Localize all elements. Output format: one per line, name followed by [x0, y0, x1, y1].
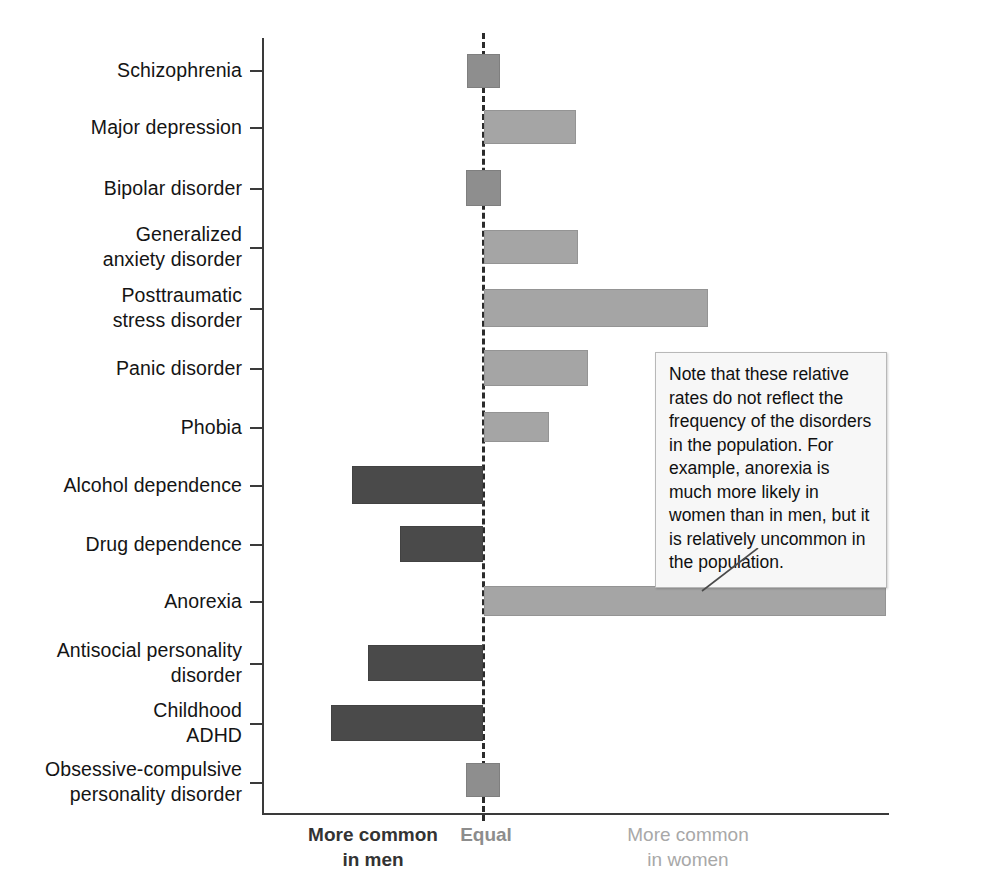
category-label: Bipolar disorder — [104, 176, 242, 201]
bar-drug-dependence — [400, 526, 483, 562]
category-tick — [250, 308, 263, 310]
bar-phobia — [484, 412, 549, 442]
bar-major-depression — [484, 110, 576, 144]
category-tick — [250, 368, 263, 370]
category-label: Phobia — [181, 415, 242, 440]
category-label: Major depression — [91, 115, 242, 140]
category-tick — [250, 70, 263, 72]
category-tick — [250, 782, 263, 784]
category-tick — [250, 485, 263, 487]
axis-caption-more-common-in-women: More common in women — [560, 822, 816, 872]
category-label: Posttraumatic stress disorder — [113, 283, 242, 333]
category-label: Obsessive-compulsive personality disorde… — [45, 757, 242, 807]
bar-obsessive-compulsive-personality-disorder — [466, 763, 500, 797]
category-label: Childhood ADHD — [153, 698, 242, 748]
bar-antisocial-personality-disorder — [368, 645, 483, 681]
bar-generalized-anxiety-disorder — [484, 230, 578, 264]
category-label: Antisocial personality disorder — [57, 638, 242, 688]
category-tick — [250, 188, 263, 190]
category-tick — [250, 663, 263, 665]
category-label: Panic disorder — [116, 356, 242, 381]
bar-schizophrenia — [467, 54, 500, 88]
x-axis-line — [262, 813, 889, 815]
category-label: Schizophrenia — [117, 58, 242, 83]
category-tick — [250, 427, 263, 429]
bar-childhood-adhd — [331, 705, 483, 741]
category-label: Alcohol dependence — [63, 473, 242, 498]
bar-panic-disorder — [484, 350, 588, 386]
bar-alcohol-dependence — [352, 466, 483, 504]
category-label: Generalized anxiety disorder — [103, 222, 242, 272]
axis-caption-equal: Equal — [432, 822, 540, 847]
annotation-callout: Note that these relative rates do not re… — [655, 352, 887, 588]
category-label: Drug dependence — [85, 532, 242, 557]
category-label: Anorexia — [164, 589, 242, 614]
bar-anorexia — [484, 586, 886, 616]
category-tick — [250, 127, 263, 129]
category-tick — [250, 247, 263, 249]
bar-posttraumatic-stress-disorder — [484, 289, 708, 327]
category-tick — [250, 544, 263, 546]
bar-bipolar-disorder — [466, 170, 501, 206]
category-tick — [250, 601, 263, 603]
relative-rates-bar-chart: SchizophreniaMajor depressionBipolar dis… — [0, 0, 994, 885]
category-tick — [250, 723, 263, 725]
